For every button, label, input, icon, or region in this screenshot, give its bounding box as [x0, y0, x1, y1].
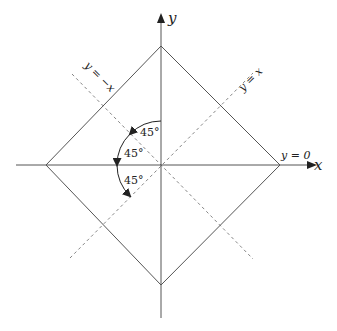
y-axis-label: y	[167, 9, 177, 27]
angle-label-1: 45°	[140, 126, 160, 139]
angle-label-2: 45°	[124, 147, 144, 160]
diagram-canvas: 45° 45° 45° y x y = 0 y = x y = −x	[0, 0, 337, 331]
label-y-eq-x: y = x	[235, 64, 266, 95]
line-y-eq-neg-x	[72, 74, 253, 259]
angle-label-3: 45°	[124, 174, 144, 187]
label-y-eq-neg-x: y = −x	[81, 58, 118, 95]
label-y-eq-0: y = 0	[280, 149, 310, 162]
x-axis-label: x	[314, 156, 323, 174]
